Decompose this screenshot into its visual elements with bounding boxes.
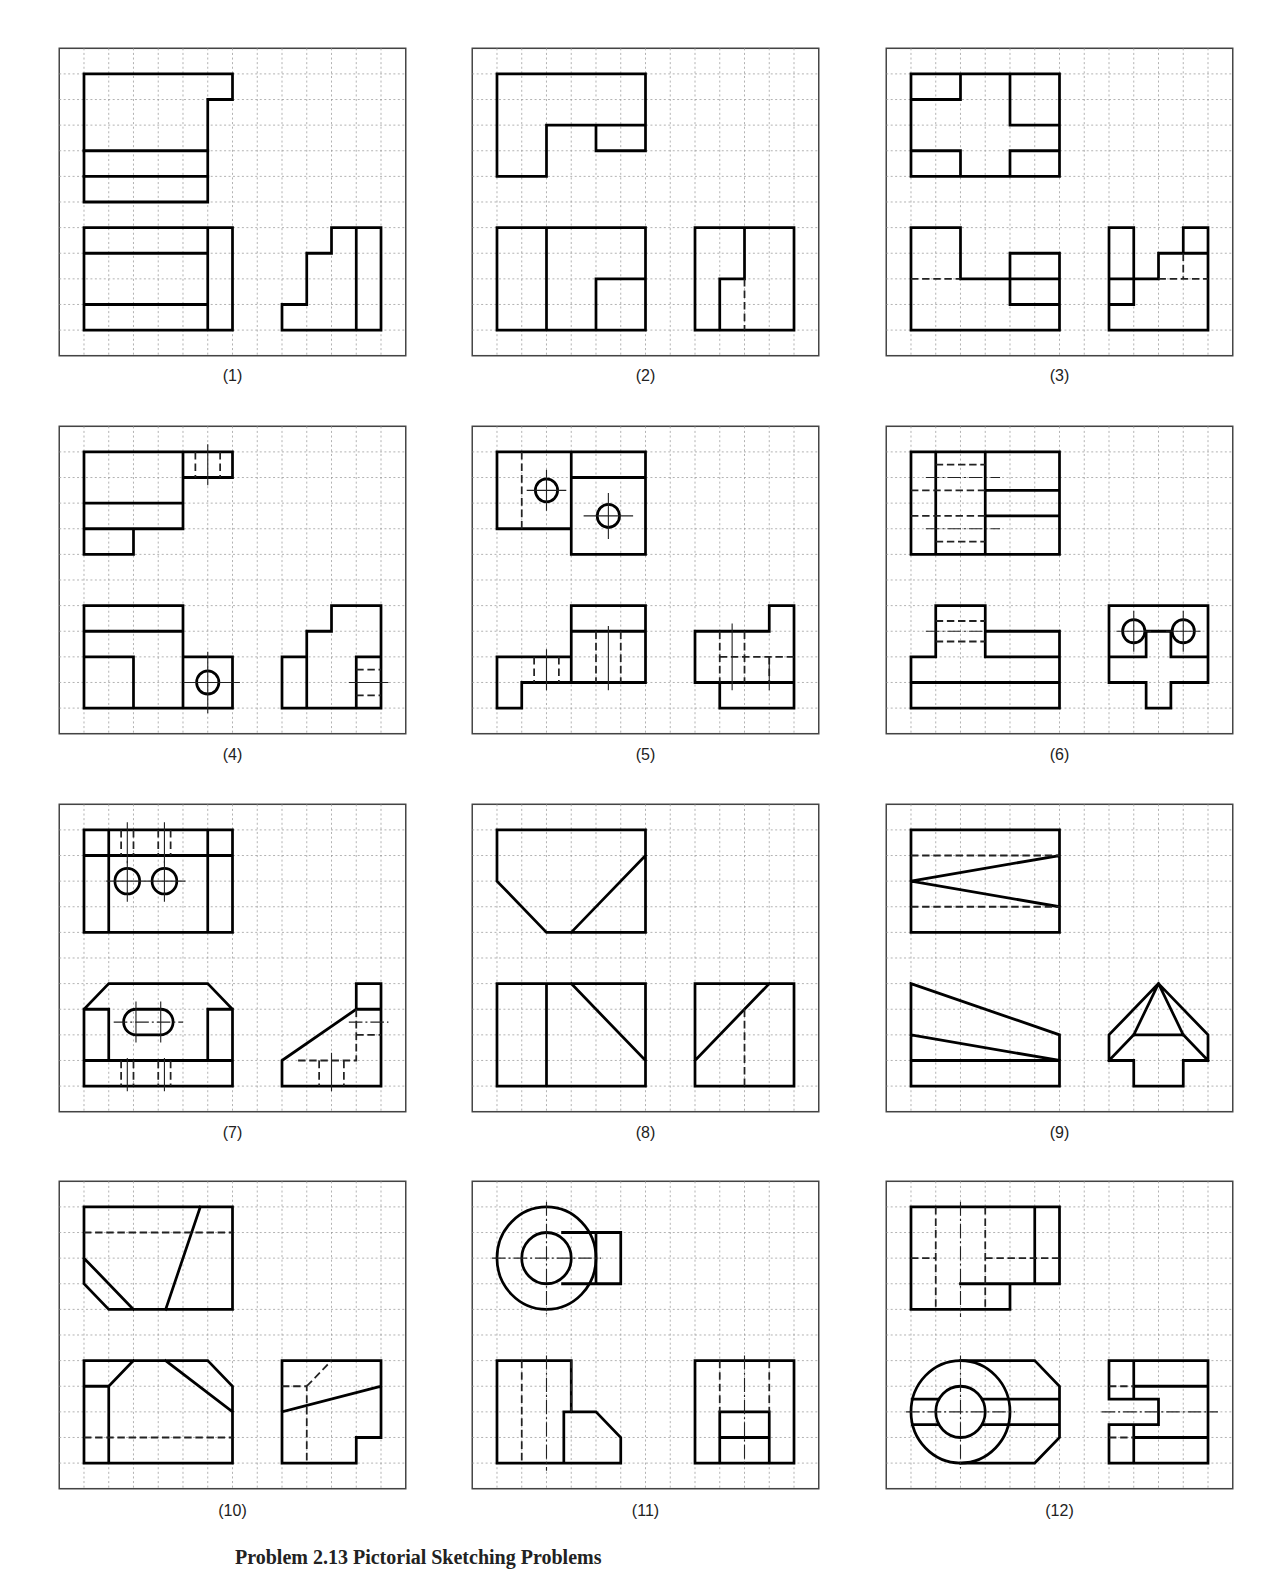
problem-panel-3 [885,47,1234,357]
panel-label-5: (5) [471,746,820,764]
panel-label-10: (10) [58,1502,407,1520]
problem-panel-12 [885,1180,1234,1490]
problem-panel-9 [885,803,1234,1113]
panel-label-11: (11) [471,1502,820,1520]
panel-label-4: (4) [58,746,407,764]
orthographic-drawing-11 [471,1180,820,1490]
problem-panel-5 [471,425,820,735]
problem-panel-2 [471,47,820,357]
problem-panel-7 [58,803,407,1113]
problem-panel-4 [58,425,407,735]
orthographic-drawing-4 [58,425,407,735]
orthographic-drawing-7 [58,803,407,1113]
panel-label-1: (1) [58,367,407,385]
orthographic-drawing-8 [471,803,820,1113]
orthographic-drawing-3 [885,47,1234,357]
panel-label-12: (12) [885,1502,1234,1520]
problem-panel-8 [471,803,820,1113]
orthographic-drawing-2 [471,47,820,357]
panel-label-9: (9) [885,1124,1234,1142]
figure-caption: Problem 2.13 Pictorial Sketching Problem… [235,1546,601,1569]
orthographic-drawing-6 [885,425,1234,735]
orthographic-drawing-1 [58,47,407,357]
problem-panel-6 [885,425,1234,735]
panel-label-2: (2) [471,367,820,385]
panel-label-8: (8) [471,1124,820,1142]
problem-panel-10 [58,1180,407,1490]
problem-panel-1 [58,47,407,357]
orthographic-drawing-5 [471,425,820,735]
orthographic-drawing-12 [885,1180,1234,1490]
orthographic-drawing-10 [58,1180,407,1490]
panel-label-3: (3) [885,367,1234,385]
panel-label-7: (7) [58,1124,407,1142]
problem-panel-11 [471,1180,820,1490]
panel-label-6: (6) [885,746,1234,764]
orthographic-drawing-9 [885,803,1234,1113]
